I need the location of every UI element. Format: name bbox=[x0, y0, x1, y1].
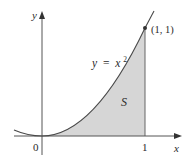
function-label: y = x 2 bbox=[91, 55, 127, 70]
parabola-area-diagram: y x 0 1 (1, 1) S y = x 2 bbox=[0, 0, 196, 163]
point-label: (1, 1) bbox=[151, 24, 174, 36]
y-axis-label: y bbox=[31, 9, 37, 21]
region-s-fill bbox=[42, 28, 145, 136]
point-1-1 bbox=[143, 26, 147, 30]
function-label-y: y bbox=[91, 57, 98, 70]
diagram-canvas: y x 0 1 (1, 1) S y = x 2 bbox=[0, 0, 196, 163]
origin-label: 0 bbox=[33, 141, 39, 153]
x-axis-label: x bbox=[173, 142, 179, 154]
region-label-s: S bbox=[121, 95, 127, 109]
y-axis-arrow-icon bbox=[39, 11, 45, 19]
x-tick-label-1: 1 bbox=[142, 141, 148, 153]
function-label-exponent: 2 bbox=[123, 55, 127, 64]
x-axis-arrow-icon bbox=[174, 133, 182, 139]
function-label-eq: = bbox=[103, 57, 110, 69]
function-label-x: x bbox=[114, 57, 121, 69]
